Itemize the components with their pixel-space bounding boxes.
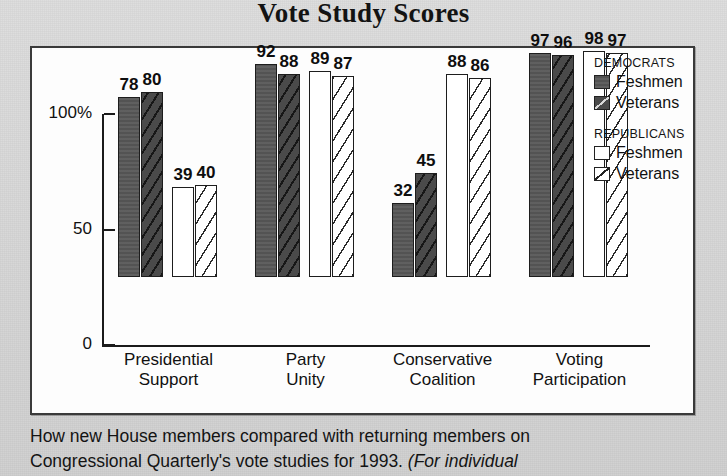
caption-line-2b: (For individual [408,451,518,471]
bar-dem-v-0[interactable] [141,92,163,277]
dem-veterans-swatch-icon [594,96,610,110]
category-label-line2: Support [90,370,247,390]
bar-group: 92888987 [255,48,354,277]
category-label-3: VotingParticipation [501,350,658,390]
chart-page: Vote Study Scores 100%500 78803940928889… [0,0,727,476]
bar-value-label: 80 [135,70,169,90]
bar-rep-f-2[interactable] [446,74,468,277]
bar-dem-v-3[interactable] [552,55,574,277]
bar-value-label: 96 [546,33,580,53]
legend-item-rep-veterans[interactable]: Veterans [594,165,695,183]
category-label-line1: Party [286,350,326,369]
caption-line-1: How new House members compared with retu… [30,426,530,446]
bar-dem-f-2[interactable] [392,203,414,277]
bar-group: 78803940 [118,48,217,277]
bar-rep-f-0[interactable] [172,187,194,277]
legend-group-democrats-title: DEMOCRATS [594,56,695,70]
bar-value-label: 86 [463,56,497,76]
chart-legend: DEMOCRATS Feshmen Veterans REPUBLICANS F… [590,56,695,186]
x-axis-category-labels: PresidentialSupportPartyUnityConservativ… [104,350,652,410]
bar-dem-v-2[interactable] [415,173,437,277]
bar-value-label: 45 [409,151,443,171]
legend-item-dem-veterans[interactable]: Veterans [594,94,695,112]
bar-dem-f-3[interactable] [529,53,551,277]
category-label-line1: Voting [556,350,603,369]
category-label-0: PresidentialSupport [90,350,247,390]
category-label-line2: Unity [227,370,384,390]
caption-line-2a: Congressional Quarterly's vote studies f… [30,451,408,471]
legend-label: Feshmen [616,144,683,162]
legend-label: Veterans [616,94,679,112]
bar-value-label: 40 [189,163,223,183]
dem-freshmen-swatch-icon [594,75,610,89]
plot-area: 100%500 78803940928889873245888697969897… [32,48,697,417]
bar-dem-f-1[interactable] [255,64,277,277]
bar-value-label: 97 [600,31,634,51]
bar-rep-v-1[interactable] [332,76,354,277]
bar-value-label: 87 [326,54,360,74]
bar-group: 32458886 [392,48,491,277]
legend-label: Veterans [616,165,679,183]
bar-dem-f-0[interactable] [118,97,140,277]
bar-value-label: 88 [272,52,306,72]
category-label-line1: Presidential [124,350,213,369]
y-tick-label: 0 [32,334,98,354]
category-label-1: PartyUnity [227,350,384,390]
rep-freshmen-swatch-icon [594,146,610,160]
chart-panel: 100%500 78803940928889873245888697969897… [30,46,695,415]
y-tick-label: 100% [32,103,98,123]
chart-caption: How new House members compared with retu… [30,424,720,474]
bar-rep-f-1[interactable] [309,71,331,277]
legend-spacer [590,115,695,127]
category-label-line1: Conservative [393,350,492,369]
category-label-line2: Participation [501,370,658,390]
legend-group-republicans-title: REPUBLICANS [594,127,695,141]
page-title: Vote Study Scores [0,0,727,29]
legend-item-dem-freshmen[interactable]: Feshmen [594,73,695,91]
rep-veterans-swatch-icon [594,167,610,181]
legend-label: Feshmen [616,73,683,91]
bar-dem-v-1[interactable] [278,74,300,277]
bar-rep-v-2[interactable] [469,78,491,277]
category-label-line2: Coalition [364,370,521,390]
bar-rep-v-0[interactable] [195,185,217,277]
category-label-2: ConservativeCoalition [364,350,521,390]
bar-series-container: 78803940928889873245888697969897 [104,48,652,347]
legend-item-rep-freshmen[interactable]: Feshmen [594,144,695,162]
y-tick-label: 50 [32,219,98,239]
